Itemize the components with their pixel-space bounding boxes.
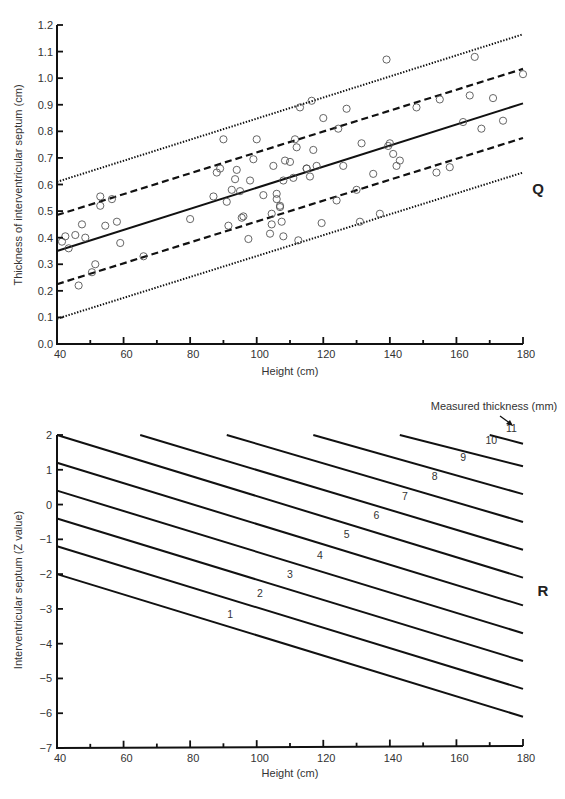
thickness-label-5: 5: [344, 528, 350, 540]
y-tick-label: −6: [39, 707, 52, 719]
x-tick-label: 40: [54, 348, 66, 360]
data-point: [413, 104, 420, 111]
data-point: [228, 186, 235, 193]
x-tick-label: 100: [251, 752, 269, 764]
y-tick-label: 1.2: [38, 19, 53, 31]
thickness-label-1: 1: [227, 608, 233, 620]
line-upper-2: [57, 34, 523, 182]
data-point: [62, 233, 69, 240]
data-point: [466, 92, 473, 99]
y-tick-label: −7: [39, 742, 52, 754]
y-tick-label: 0.7: [38, 152, 53, 164]
thickness-line-4: [57, 491, 523, 634]
data-point: [266, 230, 273, 237]
q-axes: 0.00.10.20.30.40.50.60.70.80.91.01.11.24…: [38, 19, 535, 360]
thickness-label-4: 4: [317, 549, 323, 561]
y-tick-label: 0: [46, 499, 52, 511]
data-point: [390, 150, 397, 157]
data-point: [240, 213, 247, 220]
data-point: [370, 170, 377, 177]
x-tick-label: 40: [54, 752, 66, 764]
data-point: [78, 221, 85, 228]
y-tick-label: 0.3: [38, 258, 53, 270]
data-point: [245, 235, 252, 242]
data-point: [102, 222, 109, 229]
data-point: [293, 144, 300, 151]
thickness-line-5: [57, 463, 523, 606]
y-tick-label: 1: [46, 464, 52, 476]
data-point: [383, 56, 390, 63]
y-tick-label: 0.1: [38, 311, 53, 323]
y-tick-label: −3: [39, 603, 52, 615]
data-point: [97, 193, 104, 200]
y-tick-label: −5: [39, 672, 52, 684]
data-point: [231, 176, 238, 183]
line-upper-1: [57, 69, 523, 215]
y-tick-label: 0.2: [38, 285, 53, 297]
r-y-axis-label: Interventricular septum (Z value): [12, 511, 24, 669]
data-point: [433, 169, 440, 176]
data-point: [117, 239, 124, 246]
data-point: [225, 222, 232, 229]
data-point: [396, 157, 403, 164]
data-point: [320, 114, 327, 121]
data-point: [58, 238, 65, 245]
data-point: [286, 158, 293, 165]
thickness-line-1: [57, 574, 523, 717]
chart-r: 1234567891011 210−1−2−3−4−5−6−7406080100…: [12, 400, 557, 779]
data-point: [519, 71, 526, 78]
x-tick-label: 160: [450, 752, 468, 764]
data-point: [306, 173, 313, 180]
thickness-label-9: 9: [460, 451, 466, 463]
data-point: [393, 162, 400, 169]
data-point: [340, 162, 347, 169]
data-point: [310, 146, 317, 153]
data-point: [92, 261, 99, 268]
y-tick-label: 0.0: [38, 338, 53, 350]
data-point: [281, 157, 288, 164]
data-point: [478, 125, 485, 132]
thickness-label-8: 8: [432, 470, 438, 482]
chart-q: 0.00.10.20.30.40.50.60.70.80.91.01.11.24…: [12, 19, 544, 377]
x-tick-label: 120: [317, 348, 335, 360]
r-thickness-lines: 1234567891011: [57, 422, 523, 717]
data-point: [220, 136, 227, 143]
line-lower-2: [57, 173, 523, 319]
data-point: [436, 96, 443, 103]
y-tick-label: 1.1: [38, 46, 53, 58]
thickness-label-3: 3: [287, 568, 293, 580]
data-point: [296, 104, 303, 111]
data-point: [376, 210, 383, 217]
panel-label-q: Q: [532, 180, 544, 197]
data-point: [233, 166, 240, 173]
y-tick-label: 0.9: [38, 99, 53, 111]
data-point: [278, 218, 285, 225]
x-tick-label: 140: [384, 348, 402, 360]
data-point: [210, 193, 217, 200]
y-tick-label: 2: [46, 429, 52, 441]
data-point: [108, 196, 115, 203]
q-y-axis-label: Thickness of interventricular septum (cm…: [12, 84, 24, 285]
x-tick-label: 60: [120, 752, 132, 764]
data-point: [82, 234, 89, 241]
data-point: [270, 162, 277, 169]
data-point: [333, 197, 340, 204]
data-point: [343, 105, 350, 112]
q-x-axis-label: Height (cm): [262, 365, 319, 377]
data-point: [75, 282, 82, 289]
x-tick-label: 140: [384, 752, 402, 764]
x-tick-label: 60: [120, 348, 132, 360]
x-tick-label: 180: [517, 348, 535, 360]
y-tick-label: 0.8: [38, 125, 53, 137]
data-point: [291, 136, 298, 143]
figure: 0.00.10.20.30.40.50.60.70.80.91.01.11.24…: [0, 0, 565, 799]
data-point: [223, 198, 230, 205]
thickness-line-3: [57, 518, 523, 661]
y-tick-label: 1.0: [38, 72, 53, 84]
data-point: [253, 136, 260, 143]
y-tick-label: 0.4: [38, 232, 53, 244]
y-tick-label: −4: [39, 638, 52, 650]
y-tick-label: 0.6: [38, 179, 53, 191]
data-point: [499, 117, 506, 124]
thickness-label-7: 7: [402, 490, 408, 502]
